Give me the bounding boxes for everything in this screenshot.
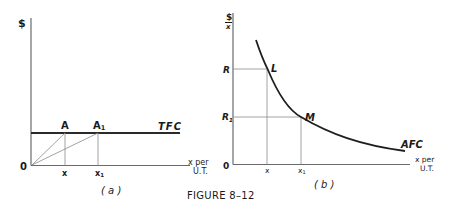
point-m-label: M [305,112,315,123]
panel-a-tick-x1: x1 [95,169,104,178]
panel-b-origin-label: 0 [223,161,229,171]
panel-b-x-axis-label-line2: U.T. [420,164,434,173]
panel-b-x-axis-label-line1: x per [415,155,435,164]
afc-label: AFC [400,139,424,150]
panel-b-y-axis-label-den: x [225,23,231,31]
panel-a-y-axis-label: $ [18,17,26,30]
panel-b-tick-x1: x1 [298,166,306,175]
point-l-label: L [271,63,277,74]
panel-a-x-axis-label-line2: U.T. [193,167,208,176]
panel-a-x-axis-label-line1: x per [188,158,209,167]
panel-b-y-axis-label-num: $ [226,12,232,22]
panel-b-tick-r1: R1 [222,112,233,123]
panel-b: $ x R R1 0 L M AFC x x1 x per U.T. ( b ) [222,12,435,190]
tfc-label: TFC [158,121,182,132]
point-a-label: A [61,120,69,131]
panel-b-tick-r: R [223,65,230,75]
panel-a: $ 0 A A1 TFC x x1 x per U.T. ( a ) [18,17,209,196]
figure-canvas: $ 0 A A1 TFC x x1 x per U.T. ( a ) $ x R [0,0,456,211]
afc-curve [256,40,405,151]
panel-b-caption: ( b ) [314,179,335,190]
panel-a-caption: ( a ) [101,185,121,196]
panel-a-tick-x: x [62,169,68,178]
panel-a-origin-label: 0 [20,161,27,172]
figure-caption: FIGURE 8–12 [187,190,255,201]
point-a1-label: A1 [93,120,106,132]
panel-b-tick-x: x [265,166,270,175]
ray-0-a [32,133,65,165]
